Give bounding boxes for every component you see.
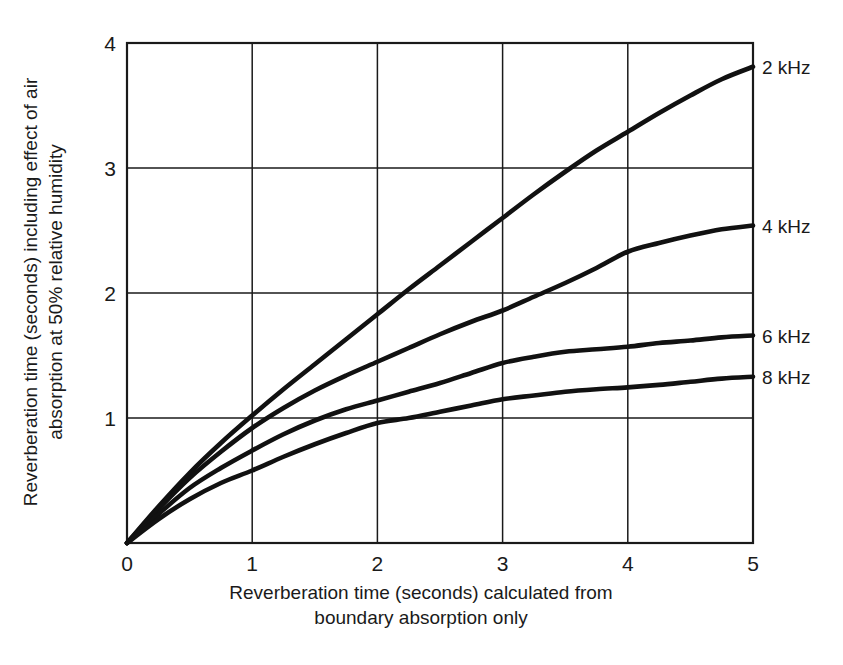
y-axis-title-line2: absorption at 50% relative humidity <box>45 144 66 440</box>
x-tick-label-4: 4 <box>622 552 634 575</box>
chart-figure: 012345 1234 2 kHz4 kHz6 kHz8 kHz Reverbe… <box>0 0 843 665</box>
y-axis-title-line1: Reverberation time (seconds) including e… <box>20 77 41 506</box>
reverberation-time-line-chart: 012345 1234 2 kHz4 kHz6 kHz8 kHz Reverbe… <box>0 0 843 665</box>
y-tick-label-4: 4 <box>104 32 116 55</box>
series-label-2-khz: 2 kHz <box>762 57 811 78</box>
x-tick-label-5: 5 <box>747 552 759 575</box>
x-axis-title-line1: Reverberation time (seconds) calculated … <box>229 582 612 603</box>
x-tick-label-3: 3 <box>497 552 509 575</box>
y-tick-label-3: 3 <box>104 157 116 180</box>
x-tick-label-2: 2 <box>372 552 384 575</box>
x-axis-title-line2: boundary absorption only <box>314 607 528 628</box>
series-label-4-khz: 4 kHz <box>762 216 811 237</box>
series-label-6-khz: 6 kHz <box>762 326 811 347</box>
x-tick-label-0: 0 <box>121 552 133 575</box>
y-tick-label-2: 2 <box>104 282 116 305</box>
x-tick-label-1: 1 <box>246 552 258 575</box>
y-tick-label-1: 1 <box>104 407 116 430</box>
series-label-8-khz: 8 kHz <box>762 367 811 388</box>
